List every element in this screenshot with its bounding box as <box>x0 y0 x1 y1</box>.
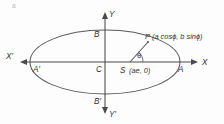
label-y-negative: Y′ <box>109 110 116 119</box>
x-negative-arrowhead <box>20 59 27 65</box>
ellipse-diagram: a Y Y′ X X′ B B′ C A′ <box>0 0 224 124</box>
label-x-negative: X′ <box>5 52 13 61</box>
y-negative-arrowhead <box>102 107 108 114</box>
label-vertex-right: A <box>177 65 184 74</box>
x-positive-arrowhead <box>191 59 198 65</box>
corner-mark: a <box>12 2 16 9</box>
label-x-positive: X <box>201 58 208 67</box>
label-focus-coords: (ae, 0) <box>129 66 151 75</box>
label-y-positive: Y <box>109 10 115 19</box>
label-vertex-left: A′ <box>32 65 40 74</box>
point-marker-P <box>147 41 149 43</box>
y-positive-arrowhead <box>102 12 108 19</box>
label-angle-theta: θ <box>137 51 141 60</box>
label-covertex-bottom: B′ <box>94 97 101 106</box>
label-focus: S <box>120 66 126 75</box>
label-covertex-top: B <box>94 30 100 39</box>
label-center: C <box>96 65 102 74</box>
label-point-coords: (a cosϕ, b sinϕ) <box>152 32 203 41</box>
